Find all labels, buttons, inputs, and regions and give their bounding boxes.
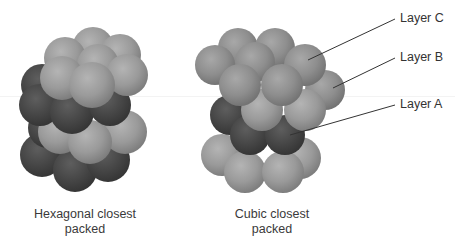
ccp-caption: Cubic closest packed [212,207,332,237]
ccp-caption-line2: packed [212,222,332,237]
hcp-layer-1-light [40,27,148,108]
leader-line-layer-c [308,19,395,60]
ccp-caption-line1: Cubic closest [212,207,332,222]
label-layer-b: Layer B [400,50,443,64]
hcp-caption-line1: Hexagonal closest [25,207,145,222]
hcp-caption-line2: packed [25,222,145,237]
label-layer-c: Layer C [400,11,444,25]
leader-line-layer-b [333,58,395,88]
hcp-caption: Hexagonal closest packed [25,207,145,237]
hcp-structure [19,27,148,192]
label-layer-a: Layer A [400,97,442,111]
